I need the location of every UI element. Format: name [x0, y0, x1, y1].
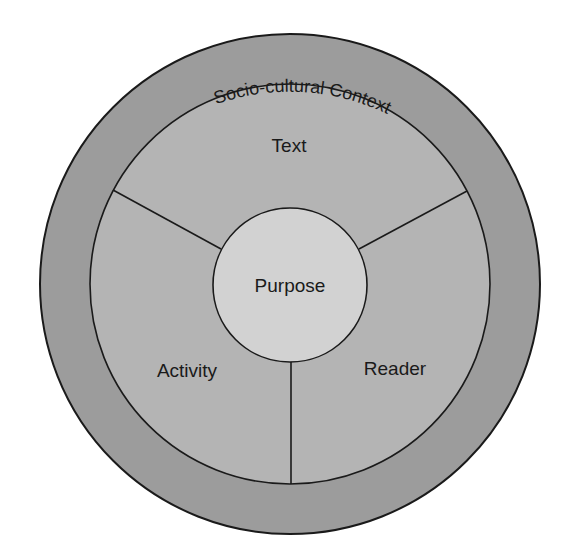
segment-label-text: Text — [272, 135, 308, 156]
socio-cultural-diagram: Socio-cultural Context Text Activity Rea… — [0, 0, 575, 556]
center-label-purpose: Purpose — [255, 275, 326, 296]
segment-label-activity: Activity — [157, 360, 218, 381]
segment-label-reader: Reader — [364, 358, 427, 379]
